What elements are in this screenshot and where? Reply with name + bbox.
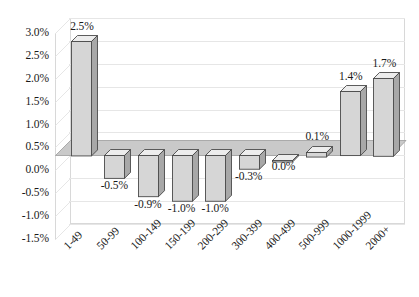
bar-chart: 3.0%2.5%2.0%1.5%1.0%0.5%0.0%-0.5%-1.0%-1… [0,0,419,297]
y-tick-label: 1.0% [25,119,49,131]
y-tick-label: -0.5% [22,187,49,199]
gridline [69,155,405,156]
x-axis: 1-4950-99100-149150-199200-299300-399400… [55,238,405,297]
y-tick-label: 3.0% [25,27,49,39]
y-tick-label: 1.5% [25,96,49,108]
gridline [69,201,405,202]
y-tick-label: 2.5% [25,50,49,62]
gridline [69,41,405,42]
y-tick-label: -1.5% [22,233,49,245]
y-axis: 3.0%2.5%2.0%1.5%1.0%0.5%0.0%-0.5%-1.0%-1… [0,0,52,242]
plot-left-wall [55,18,70,239]
gridline [69,178,405,179]
y-tick-label: 2.0% [25,73,49,85]
gridline [69,18,405,19]
gridline [69,132,405,133]
plot-area [55,18,405,238]
y-tick-label: 0.0% [25,165,49,177]
y-tick-label: -1.0% [22,210,49,222]
gridline [69,110,405,111]
gridline [69,87,405,88]
plot-back-wall [69,18,405,224]
gridline [69,64,405,65]
y-tick-label: 0.5% [25,142,49,154]
